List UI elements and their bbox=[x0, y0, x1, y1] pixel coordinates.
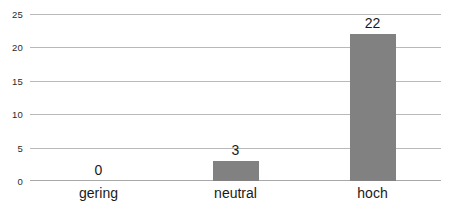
y-axis-tick-label: 10 bbox=[12, 109, 23, 120]
y-axis-tick-label: 15 bbox=[12, 75, 23, 86]
category-label-hoch: hoch bbox=[357, 186, 387, 200]
y-axis-tick-label: 5 bbox=[18, 142, 23, 153]
value-label-neutral: 3 bbox=[232, 143, 240, 157]
value-label-hoch: 22 bbox=[365, 16, 381, 30]
y-axis-tick-label: 20 bbox=[12, 42, 23, 53]
category-label-gering: gering bbox=[79, 186, 118, 200]
value-label-gering: 0 bbox=[95, 163, 103, 177]
category-label-neutral: neutral bbox=[214, 186, 257, 200]
bar-chart: 0510152025 0gering3neutral22hoch bbox=[0, 0, 449, 212]
y-axis-tick-label: 0 bbox=[18, 176, 23, 187]
bar-neutral bbox=[213, 161, 259, 181]
y-axis-tick-label: 25 bbox=[12, 9, 23, 20]
bar-hoch bbox=[350, 34, 396, 181]
